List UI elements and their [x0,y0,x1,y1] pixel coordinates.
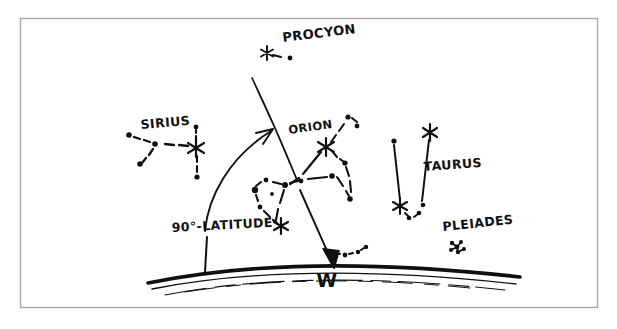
star-pleiades-5 [449,248,453,252]
star-meissa [345,114,350,119]
star-hyades-right [421,203,426,208]
star-muliphein [194,125,199,130]
star-sword-3 [356,250,360,254]
star-orion-inner-dot [270,192,274,196]
star-pleiades-2 [455,245,460,250]
star-theta-cma [126,132,132,138]
star-pleiades-4 [456,250,460,254]
star-mu-orionis [355,124,360,129]
star-belt-alnitak [282,182,288,188]
west-marker-label: W [316,269,337,291]
star-hyades-low [407,216,412,221]
star-mirzam [152,141,158,147]
star-belt-mintaka [329,173,335,179]
star-sword-2 [343,253,348,258]
star-shield-lower [258,205,263,210]
star-pleiades-3 [459,240,463,244]
star-wezen [194,174,199,179]
star-gomeisa [288,56,293,61]
star-saiph [347,196,353,202]
star-orion-knee [342,160,347,165]
star-shield-upper [252,187,258,193]
star-hyades-tip [391,138,396,143]
star-pleiades-6 [462,247,466,251]
star-sword-4 [364,245,368,249]
star-bellatrix [299,179,304,184]
star-belt-alnilam [264,178,269,183]
star-hyades-mid [417,211,422,216]
star-chart-figure: PROCYON SIRIUS [0,0,617,329]
figure-background [0,0,617,329]
sky-diagram: PROCYON SIRIUS [0,0,617,329]
star-adhara [137,161,143,167]
star-pleiades-1 [450,241,454,245]
